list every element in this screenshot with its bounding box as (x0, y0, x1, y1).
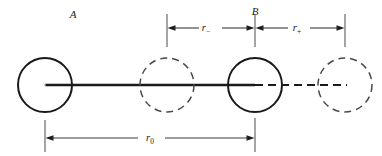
molecule-displacement-diagram: A B r− r+ r0 (0, 0, 382, 156)
label-dimension-r-plus: r+ (293, 22, 301, 36)
label-point-a: A (69, 8, 77, 20)
label-r-zero-subscript: 0 (150, 137, 154, 146)
label-r-minus-subscript: − (206, 27, 210, 36)
atom-a-center-dot (44, 84, 46, 86)
label-dimension-r-zero: r0 (146, 132, 154, 146)
figure-container: A B r− r+ r0 (0, 0, 382, 156)
dimension-r-minus (168, 25, 255, 31)
label-dimension-r-minus: r− (202, 22, 210, 36)
label-point-b: B (252, 5, 259, 17)
top-extension-lines (167, 14, 345, 47)
label-r-plus-subscript: + (297, 27, 301, 36)
